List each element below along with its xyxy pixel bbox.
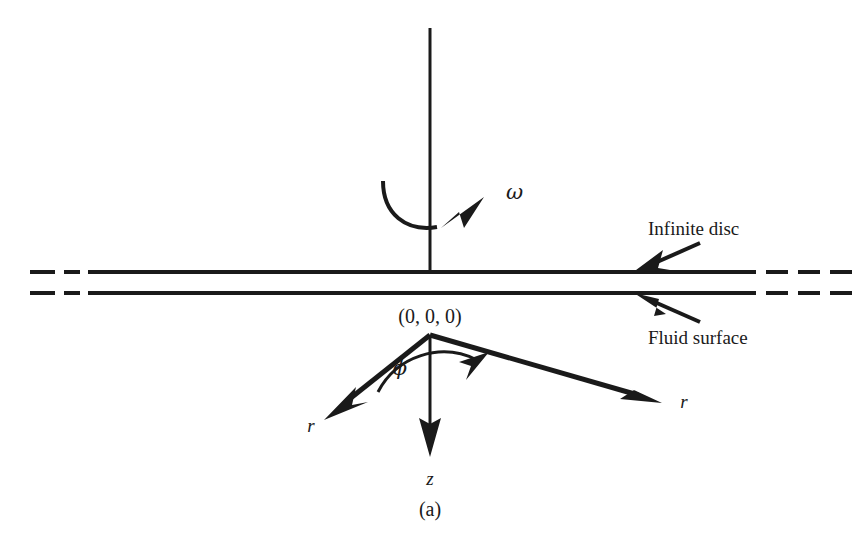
omega-arrowhead-icon [441, 197, 484, 228]
r-vector-right-label: r [680, 391, 688, 412]
phi-label: ϕ [393, 356, 407, 380]
fluid-surface-label: Fluid surface [648, 327, 748, 348]
r-vector-left-line [347, 335, 430, 401]
figure-root: ω Infinite disc Fluid surface (0, 0, 0) [0, 0, 865, 548]
z-axis-label: z [425, 468, 434, 489]
infinite-disc-label: Infinite disc [648, 218, 739, 239]
r-vector-right-line [430, 335, 638, 395]
figure-caption: (a) [419, 498, 441, 521]
omega-label: ω [506, 180, 523, 204]
infinite-disc-arrowhead-icon [632, 250, 670, 273]
origin-label: (0, 0, 0) [398, 305, 461, 328]
r-vector-left-label: r [307, 415, 315, 436]
rotating-disc-diagram: ω Infinite disc Fluid surface (0, 0, 0) [0, 0, 865, 548]
